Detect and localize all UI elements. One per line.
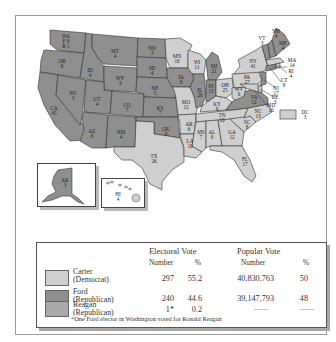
svg-text:26: 26 xyxy=(151,158,157,164)
svg-text:10: 10 xyxy=(187,143,193,149)
results-legend: Electoral Vote Popular Vote Number % Num… xyxy=(36,242,327,328)
svg-text:26: 26 xyxy=(197,92,203,98)
pv-number: ----- xyxy=(254,305,268,314)
svg-text:3: 3 xyxy=(304,114,307,120)
svg-text:7: 7 xyxy=(126,107,129,113)
svg-text:13: 13 xyxy=(208,88,214,94)
pv-percent-header: % xyxy=(303,258,309,267)
ev-number-header: Number xyxy=(149,258,173,267)
alaska-map: AK3 xyxy=(38,164,95,206)
svg-text:4: 4 xyxy=(282,45,285,51)
electoral-vote-header: Electoral Vote xyxy=(149,247,196,256)
svg-text:4: 4 xyxy=(151,70,154,76)
svg-text:12: 12 xyxy=(183,104,189,110)
svg-text:3: 3 xyxy=(261,40,264,46)
svg-text:7: 7 xyxy=(159,110,162,116)
hawaii-inset: HI4 xyxy=(101,178,145,208)
popular-vote-header: Popular Vote xyxy=(237,247,280,256)
pv-number: 40,830,763 xyxy=(237,274,274,283)
svg-text:25: 25 xyxy=(222,87,228,93)
ev-percent-header: % xyxy=(195,258,201,267)
footnote: *One Ford elector in Washington voted fo… xyxy=(71,315,222,322)
alaska-inset: AK3 xyxy=(37,163,96,207)
state-dc[interactable] xyxy=(280,110,296,119)
carter-swatch xyxy=(45,270,69,286)
svg-text:6: 6 xyxy=(238,91,241,97)
svg-text:3: 3 xyxy=(64,182,67,188)
svg-text:4: 4 xyxy=(120,134,123,140)
ev-percent: 0.2 xyxy=(192,305,202,314)
pv-percent: 50 xyxy=(300,274,308,283)
svg-text:12: 12 xyxy=(251,99,257,105)
svg-text:4: 4 xyxy=(275,33,278,39)
svg-text:17: 17 xyxy=(242,161,248,167)
candidate-party: (Democrat) xyxy=(73,276,109,284)
svg-text:10: 10 xyxy=(268,107,274,113)
state-hi[interactable] xyxy=(106,181,140,202)
legend-row-carter: Carter (Democrat) 297 55.2 40,830,763 50 xyxy=(37,268,326,288)
svg-text:4: 4 xyxy=(89,72,92,78)
svg-text:10: 10 xyxy=(174,58,180,64)
state-fl[interactable] xyxy=(210,146,256,182)
svg-text:10: 10 xyxy=(219,117,225,123)
svg-text:3: 3 xyxy=(151,50,154,56)
svg-text:8: 8 xyxy=(246,124,249,130)
pv-percent: ----- xyxy=(300,305,314,314)
svg-text:3: 3 xyxy=(119,80,122,86)
svg-text:4: 4 xyxy=(290,73,293,79)
svg-text:6: 6 xyxy=(61,63,64,69)
ev-number: 1* xyxy=(166,305,174,314)
svg-text:4: 4 xyxy=(114,53,117,59)
svg-text:27: 27 xyxy=(244,79,250,85)
svg-text:4: 4 xyxy=(117,196,120,202)
svg-text:6: 6 xyxy=(91,133,94,139)
svg-text:8: 8 xyxy=(180,79,183,85)
svg-text:5: 5 xyxy=(154,90,157,96)
svg-text:8: 8 xyxy=(165,131,168,137)
svg-text:11: 11 xyxy=(195,64,200,70)
svg-text:12: 12 xyxy=(229,134,235,140)
pv-number-header: Number xyxy=(241,258,265,267)
ev-number: 297 xyxy=(162,274,174,283)
state-shapes xyxy=(38,30,180,148)
hawaii-map: HI4 xyxy=(102,179,144,207)
svg-text:7: 7 xyxy=(200,134,203,140)
svg-text:6: 6 xyxy=(188,126,191,132)
svg-text:4: 4 xyxy=(96,101,99,107)
ev-percent: 55.2 xyxy=(188,274,202,283)
svg-text:R 1: R 1 xyxy=(62,43,70,49)
svg-text:41: 41 xyxy=(250,63,256,69)
svg-text:45: 45 xyxy=(51,110,57,116)
svg-text:8: 8 xyxy=(283,82,286,88)
svg-text:13: 13 xyxy=(255,113,261,119)
svg-text:3: 3 xyxy=(72,95,75,101)
svg-text:21: 21 xyxy=(211,68,217,74)
svg-text:9: 9 xyxy=(211,134,214,140)
